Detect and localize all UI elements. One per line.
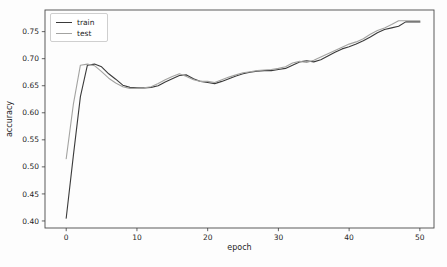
- train-line-swatch: [56, 22, 72, 23]
- y-tick-label: 0.70: [22, 54, 39, 63]
- y-tick-label: 0.45: [22, 190, 39, 199]
- y-tick-label: 0.55: [22, 135, 39, 144]
- x-tick-label: 0: [64, 233, 69, 242]
- line-chart-figure: 010203040500.400.450.500.550.600.650.700…: [0, 0, 447, 267]
- y-tick-label: 0.50: [22, 162, 39, 171]
- y-tick-label: 0.75: [22, 27, 39, 36]
- legend: train test: [50, 13, 108, 42]
- x-tick-label: 40: [344, 233, 354, 242]
- series-line-test: [66, 21, 420, 159]
- legend-entry-test: test: [56, 28, 103, 39]
- x-tick-label: 20: [203, 233, 213, 242]
- test-line-swatch: [56, 33, 72, 34]
- x-tick-label: 50: [415, 233, 425, 242]
- legend-label-test: test: [77, 28, 91, 39]
- y-tick-label: 0.60: [22, 108, 39, 117]
- x-tick-label: 30: [274, 233, 284, 242]
- x-axis-label: epoch: [227, 243, 251, 252]
- series-line-train: [66, 22, 420, 218]
- plot-border: [45, 10, 434, 228]
- y-axis-label: accuracy: [5, 101, 14, 137]
- legend-label-train: train: [77, 17, 94, 28]
- x-tick-label: 10: [132, 233, 142, 242]
- legend-entry-train: train: [56, 17, 103, 28]
- y-tick-label: 0.40: [22, 217, 39, 226]
- y-tick-label: 0.65: [22, 81, 39, 90]
